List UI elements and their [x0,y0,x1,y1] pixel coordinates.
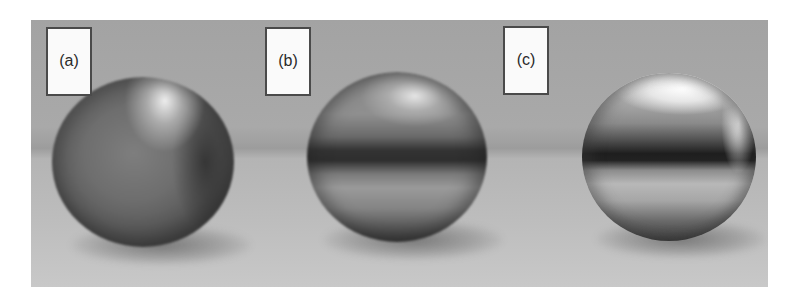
panel-label-b-text: (b) [278,52,298,70]
sphere-b [307,72,487,242]
panel-label-c-text: (c) [517,51,536,69]
panel-label-b: (b) [265,27,311,96]
panel-label-c: (c) [503,26,549,95]
sphere-a [52,77,234,247]
panel-label-a-text: (a) [59,52,79,70]
spheres-photo: (a) (b) (c) [31,20,768,287]
sphere-c [582,73,756,241]
panel-label-a: (a) [46,27,92,96]
